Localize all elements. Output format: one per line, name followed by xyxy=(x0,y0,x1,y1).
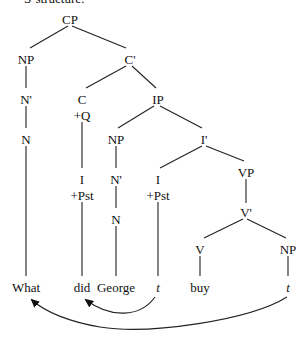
node-ip: IP xyxy=(152,92,164,107)
node-np-subj: NP xyxy=(108,132,125,147)
node-np-spec: NP xyxy=(18,52,35,67)
node-i-bar: I' xyxy=(201,132,208,147)
arrow-i-to-c-icon xyxy=(86,297,155,313)
node-v: V xyxy=(195,242,205,257)
node-v-bar: V' xyxy=(240,205,252,220)
node-n-bar-2: N' xyxy=(110,172,122,187)
terminal-buy: buy xyxy=(190,280,210,295)
node-c-bar: C' xyxy=(124,52,135,67)
node-vp: VP xyxy=(238,165,255,180)
node-i-moved-feature: +Pst xyxy=(70,188,94,203)
terminal-what: What xyxy=(12,280,41,295)
node-c-feature: +Q xyxy=(74,108,91,123)
node-i: I xyxy=(156,172,160,187)
node-np-obj: NP xyxy=(280,242,297,257)
node-cp: CP xyxy=(62,12,78,27)
terminal-did: did xyxy=(74,280,91,295)
node-n-2: N xyxy=(111,212,121,227)
diagram-heading: S-structure: xyxy=(24,0,85,6)
node-i-moved: I xyxy=(80,172,84,187)
tree-branches xyxy=(26,26,288,276)
terminal-trace-np: t xyxy=(286,280,290,295)
node-c: C xyxy=(78,92,87,107)
node-n-bar-1: N' xyxy=(20,92,32,107)
terminal-trace-i: t xyxy=(156,280,160,295)
syntax-tree-diagram: S-structure: CP NP C' N' C +Q IP N NP xyxy=(0,0,306,341)
arrow-wh-movement-icon xyxy=(32,297,287,329)
node-i-feature: +Pst xyxy=(146,188,170,203)
terminal-george: George xyxy=(97,280,135,295)
node-n-1: N xyxy=(21,132,31,147)
